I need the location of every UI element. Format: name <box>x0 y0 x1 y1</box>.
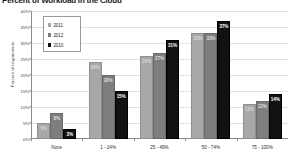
y-tick-label: 10% <box>21 105 29 110</box>
bar-2012-75-100%[interactable]: 12% <box>256 101 269 139</box>
bar-chart: Percent of Workload in the Cloud Percent… <box>0 0 293 163</box>
bar-value-label: 5% <box>40 126 46 131</box>
chart-legend: 201120122010 <box>43 16 81 52</box>
bar-2010-75-100%[interactable]: 14% <box>269 94 282 139</box>
x-tick-label: None <box>51 145 62 150</box>
bar-2011-75-100%[interactable]: 11% <box>243 104 256 139</box>
y-tick-label: 25% <box>21 57 29 62</box>
bar-value-label: 37% <box>219 24 228 29</box>
x-tick-mark <box>237 139 238 141</box>
x-tick-label: 50 - 74% <box>202 145 220 150</box>
bar-2010-25-49%[interactable]: 31% <box>166 40 179 139</box>
legend-item-2012[interactable]: 2012 <box>48 30 80 40</box>
bars-row: 11%12%14% <box>237 11 288 139</box>
bar-group: 33%33%37%50 - 74% <box>185 11 236 139</box>
chart-title: Percent of Workload in the Cloud <box>2 0 122 4</box>
x-tick-mark <box>185 139 186 141</box>
x-tick-mark <box>82 139 83 141</box>
y-tick-label: 30% <box>21 41 29 46</box>
legend-label: 2012 <box>53 33 63 38</box>
legend-swatch-icon <box>48 23 51 26</box>
legend-item-2010[interactable]: 2010 <box>48 40 80 50</box>
legend-label: 2011 <box>53 23 62 28</box>
bar-value-label: 31% <box>168 43 177 48</box>
legend-label: 2010 <box>53 43 63 48</box>
bar-value-label: 14% <box>271 97 280 102</box>
bar-value-label: 26% <box>142 59 151 64</box>
bar-value-label: 24% <box>91 65 100 70</box>
bars-row: 33%33%37% <box>185 11 236 139</box>
bar-value-label: 3% <box>66 132 72 137</box>
bars-row: 24%20%15% <box>82 11 133 139</box>
y-axis-title: Percent of respondents <box>10 27 15 103</box>
x-tick-label: 75 - 100% <box>252 145 273 150</box>
bar-value-label: 33% <box>206 36 215 41</box>
y-tick-label: 20% <box>21 73 29 78</box>
bar-2011-50-74%[interactable]: 33% <box>191 33 204 139</box>
bar-value-label: 33% <box>193 36 202 41</box>
x-tick-mark <box>31 139 32 141</box>
bar-2012-25-49%[interactable]: 27% <box>153 53 166 139</box>
bar-2011-25-49%[interactable]: 26% <box>140 56 153 139</box>
bar-group: 11%12%14%75 - 100% <box>237 11 288 139</box>
y-tick-label: 35% <box>21 25 29 30</box>
bar-group: 24%20%15%1 - 24% <box>82 11 133 139</box>
bar-group: 26%27%31%25 - 49% <box>134 11 185 139</box>
bar-value-label: 11% <box>245 107 254 112</box>
bar-value-label: 20% <box>104 78 113 83</box>
legend-item-2011[interactable]: 2011 <box>48 20 80 30</box>
y-tick-label: 5% <box>23 121 29 126</box>
bar-2012-1-24%[interactable]: 20% <box>102 75 115 139</box>
legend-swatch-icon <box>48 43 51 46</box>
x-tick-label: 1 - 24% <box>100 145 116 150</box>
y-tick-label: 15% <box>21 89 29 94</box>
y-tick-label: 40% <box>21 9 29 14</box>
legend-swatch-icon <box>48 33 51 36</box>
x-tick-mark <box>134 139 135 141</box>
bar-value-label: 15% <box>117 94 126 99</box>
bar-value-label: 27% <box>155 56 164 61</box>
bars-row: 26%27%31% <box>134 11 185 139</box>
bar-2011-1-24%[interactable]: 24% <box>89 62 102 139</box>
bar-value-label: 8% <box>53 116 59 121</box>
bar-2012-50-74%[interactable]: 33% <box>204 33 217 139</box>
y-tick-label: 0% <box>23 137 29 142</box>
bar-2010-None[interactable]: 3% <box>63 129 76 139</box>
bar-2011-None[interactable]: 5% <box>37 123 50 139</box>
bar-value-label: 12% <box>258 104 267 109</box>
bar-2010-50-74%[interactable]: 37% <box>217 21 230 139</box>
bar-2010-1-24%[interactable]: 15% <box>115 91 128 139</box>
x-tick-label: 25 - 49% <box>150 145 168 150</box>
bar-2012-None[interactable]: 8% <box>50 113 63 139</box>
